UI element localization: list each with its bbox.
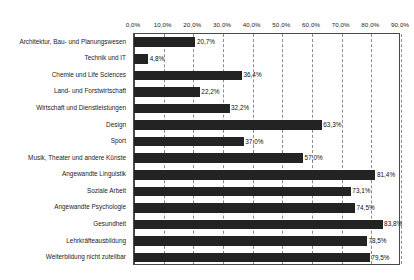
category-label: Chemie und Life Sciences — [52, 66, 126, 83]
bar-value-label: 83,8% — [383, 218, 403, 229]
bar-row: 20,7% — [134, 34, 399, 51]
bar — [134, 137, 244, 147]
bar — [134, 87, 200, 97]
x-tick-label: 20,0% — [183, 20, 201, 29]
bar — [134, 187, 351, 197]
x-tick-label: 30,0% — [213, 20, 231, 29]
bar-value-label: 81,4% — [375, 169, 395, 180]
bar-row: 57,0% — [134, 150, 399, 167]
bar — [134, 104, 230, 114]
category-label: Technik und IT — [84, 50, 126, 67]
category-label: Angewandte Linguistik — [62, 166, 126, 183]
bar-series: 20,7%4,8%36,4%22,2%32,2%63,3%37,0%57,0%8… — [134, 34, 399, 264]
category-label: Wirtschaft und Dienstleistungen — [36, 99, 126, 116]
bar-row: 32,2% — [134, 100, 399, 117]
x-axis-tick-labels: 0,0%10,0%20,0%30,0%40,0%50,0%60,0%70,0%8… — [133, 20, 393, 32]
bar-chart: 0,0%10,0%20,0%30,0%40,0%50,0%60,0%70,0%8… — [0, 0, 414, 280]
bar — [134, 54, 148, 64]
category-label: Weiterbildung nicht zuteilbar — [46, 248, 126, 265]
category-label: Design — [106, 116, 126, 133]
category-label: Sport — [111, 132, 126, 149]
bar — [134, 203, 355, 213]
bar — [134, 120, 322, 130]
x-tick-label: 10,0% — [154, 20, 172, 29]
category-label: Lehrkräfteausbildung — [66, 232, 126, 249]
bar-row: 81,4% — [134, 167, 399, 184]
category-label: Architektur, Bau- und Planungswesen — [19, 33, 126, 50]
bar-value-label: 4,8% — [148, 53, 164, 64]
bar-value-label: 22,2% — [200, 86, 220, 97]
bar-row: 74,5% — [134, 200, 399, 217]
bar-row: 37,0% — [134, 133, 399, 150]
bar-value-label: 37,0% — [244, 136, 264, 147]
bar — [134, 220, 383, 230]
bar-value-label: 73,1% — [351, 185, 371, 196]
plot-area: 20,7%4,8%36,4%22,2%32,2%63,3%37,0%57,0%8… — [133, 33, 400, 265]
bar — [134, 170, 375, 180]
x-tick-label: 0,0% — [126, 20, 141, 29]
bar-value-label: 36,4% — [242, 69, 262, 80]
bar-row: 78,5% — [134, 233, 399, 250]
gridline — [401, 34, 402, 264]
bar — [134, 153, 303, 163]
x-tick-label: 60,0% — [302, 20, 320, 29]
category-label: Gesundheit — [93, 215, 126, 232]
category-label: Angewandte Psychologie — [54, 199, 126, 216]
bar-row: 83,8% — [134, 216, 399, 233]
bar-value-label: 79,5% — [370, 252, 390, 263]
bar-row: 36,4% — [134, 67, 399, 84]
bar — [134, 253, 370, 263]
bar — [134, 236, 367, 246]
bar-value-label: 32,2% — [230, 102, 250, 113]
category-label: Musik, Theater und andere Künste — [28, 149, 126, 166]
category-label: Soziale Arbeit — [87, 182, 126, 199]
bar-row: 63,3% — [134, 117, 399, 134]
bar-value-label: 57,0% — [303, 152, 323, 163]
bar-value-label: 78,5% — [367, 235, 387, 246]
x-tick-label: 50,0% — [272, 20, 290, 29]
bar-row: 73,1% — [134, 183, 399, 200]
bar-value-label: 20,7% — [195, 36, 215, 47]
x-tick-label: 70,0% — [332, 20, 350, 29]
bar-value-label: 74,5% — [355, 202, 375, 213]
bar — [134, 71, 242, 81]
bar-row: 79,5% — [134, 249, 399, 266]
x-tick-label: 80,0% — [361, 20, 379, 29]
category-label: Land- und Forstwirtschaft — [54, 83, 126, 100]
x-tick-label: 90,0% — [391, 20, 409, 29]
bar — [134, 37, 195, 47]
category-axis-labels: Architektur, Bau- und PlanungswesenTechn… — [0, 33, 130, 265]
bar-row: 4,8% — [134, 51, 399, 68]
bar-value-label: 63,3% — [322, 119, 342, 130]
bar-row: 22,2% — [134, 84, 399, 101]
x-tick-label: 40,0% — [243, 20, 261, 29]
